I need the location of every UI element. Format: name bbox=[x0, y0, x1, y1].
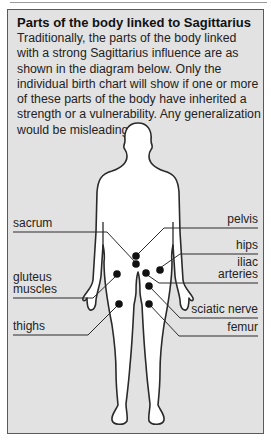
thighs-dot bbox=[115, 300, 123, 308]
label-iliac-line2: arteries bbox=[218, 268, 258, 281]
label-sciatic-nerve: sciatic nerve bbox=[191, 303, 258, 316]
label-thighs: thighs bbox=[13, 320, 45, 333]
hips-dot bbox=[156, 266, 164, 274]
label-gluteus-line2: muscles bbox=[13, 283, 57, 296]
label-hips: hips bbox=[236, 239, 258, 252]
gluteus-dot bbox=[113, 270, 121, 278]
sacrum-dot bbox=[132, 260, 140, 268]
femur-dot bbox=[145, 300, 153, 308]
iliac-dot bbox=[142, 269, 150, 277]
label-femur: femur bbox=[227, 321, 258, 334]
label-sacrum: sacrum bbox=[13, 217, 52, 230]
label-pelvis: pelvis bbox=[227, 213, 258, 226]
body-silhouette bbox=[83, 123, 193, 424]
sciatic-dot bbox=[145, 282, 153, 290]
pelvis-dot bbox=[132, 252, 140, 260]
